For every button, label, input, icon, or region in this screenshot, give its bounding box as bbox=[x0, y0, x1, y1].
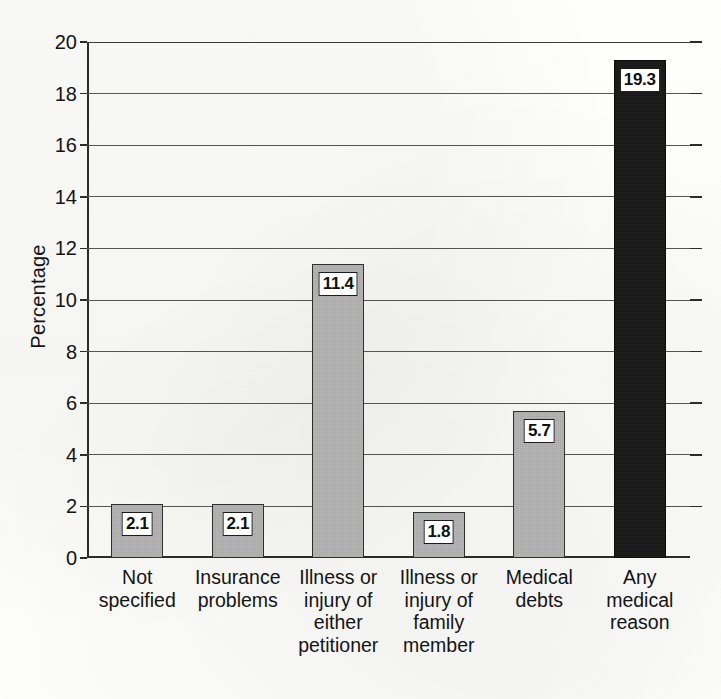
x-axis-label-line: family bbox=[389, 611, 490, 634]
y-axis-ticks: 02468101214161820 bbox=[87, 42, 690, 558]
bar: 2.1 bbox=[111, 504, 163, 558]
x-axis-label-line: injury of bbox=[389, 589, 490, 612]
gridline-right-tick bbox=[690, 506, 702, 508]
bar-chart-figure: Percentage 02468101214161820 2.12.111.41… bbox=[0, 0, 721, 699]
y-axis-tick-mark bbox=[80, 402, 87, 404]
x-axis-category-label: Illness orinjury offamilymember bbox=[389, 566, 490, 656]
bar-value-label: 19.3 bbox=[620, 68, 660, 92]
bar-value-label: 2.1 bbox=[222, 512, 253, 536]
x-axis-label-line: Illness or bbox=[389, 566, 490, 589]
gridline-right-tick bbox=[690, 196, 702, 198]
y-axis-tick-mark bbox=[80, 299, 87, 301]
bar: 11.4 bbox=[312, 264, 364, 558]
x-axis-label-line: Insurance bbox=[188, 566, 289, 589]
bar: 2.1 bbox=[212, 504, 264, 558]
x-axis-label-line: problems bbox=[188, 589, 289, 612]
gridline-right-tick bbox=[690, 248, 702, 250]
y-axis-tick-label: 6 bbox=[17, 393, 77, 413]
y-axis-tick-mark bbox=[80, 506, 87, 508]
x-axis-category-label: Illness orinjury ofeitherpetitioner bbox=[288, 566, 389, 656]
x-axis-category-label: Anymedicalreason bbox=[590, 566, 691, 634]
gridline-right-tick bbox=[690, 402, 702, 404]
x-axis-label-line: Not bbox=[87, 566, 188, 589]
bar: 19.3 bbox=[614, 60, 666, 558]
y-axis-tick-label: 4 bbox=[17, 445, 77, 465]
y-axis-tick-label: 16 bbox=[17, 135, 77, 155]
x-axis-category-label: Insuranceproblems bbox=[188, 566, 289, 611]
bar-value-label: 2.1 bbox=[122, 512, 153, 536]
y-axis-tick-mark bbox=[80, 144, 87, 146]
bar-value-label: 5.7 bbox=[524, 419, 555, 443]
gridline-right-tick bbox=[690, 454, 702, 456]
gridline-right-tick bbox=[690, 351, 702, 353]
y-axis-tick-mark bbox=[80, 248, 87, 250]
y-axis-tick-mark bbox=[80, 557, 87, 559]
y-axis-tick-label: 2 bbox=[17, 496, 77, 516]
bar: 1.8 bbox=[413, 512, 465, 558]
x-axis-label-line: Illness or bbox=[288, 566, 389, 589]
x-axis-label-line: either bbox=[288, 611, 389, 634]
gridline-right-tick bbox=[690, 144, 702, 146]
x-axis-label-line: Medical bbox=[489, 566, 590, 589]
y-axis-tick-label: 20 bbox=[17, 32, 77, 52]
y-axis-tick-mark bbox=[80, 93, 87, 95]
gridline-right-tick bbox=[690, 41, 702, 43]
bar-value-label: 11.4 bbox=[319, 272, 358, 296]
gridline-right-tick bbox=[690, 299, 702, 301]
y-axis-tick-mark bbox=[80, 196, 87, 198]
x-axis-label-line: Any bbox=[590, 566, 691, 589]
x-axis-label-line: injury of bbox=[288, 589, 389, 612]
plot-area: 02468101214161820 2.12.111.41.85.719.3 bbox=[87, 42, 690, 558]
x-axis-label-line: member bbox=[389, 634, 490, 657]
y-axis-tick-label: 18 bbox=[17, 84, 77, 104]
y-axis-tick-mark bbox=[80, 41, 87, 43]
y-axis-tick-label: 14 bbox=[17, 187, 77, 207]
y-axis-tick-label: 12 bbox=[17, 238, 77, 258]
bar-value-label: 1.8 bbox=[423, 520, 454, 544]
x-axis-category-label: Notspecified bbox=[87, 566, 188, 611]
y-axis-tick-label: 0 bbox=[17, 548, 77, 568]
x-axis-label-line: debts bbox=[489, 589, 590, 612]
y-axis-tick-mark bbox=[80, 351, 87, 353]
x-axis-label-line: medical bbox=[590, 589, 691, 612]
bar: 5.7 bbox=[513, 411, 565, 558]
x-axis-category-labels: NotspecifiedInsuranceproblemsIllness ori… bbox=[87, 566, 690, 686]
x-axis-category-label: Medicaldebts bbox=[489, 566, 590, 611]
x-axis-label-line: specified bbox=[87, 589, 188, 612]
x-axis-label-line: petitioner bbox=[288, 634, 389, 657]
gridline-right-tick bbox=[690, 93, 702, 95]
x-axis-label-line: reason bbox=[590, 611, 691, 634]
y-axis-tick-mark bbox=[80, 454, 87, 456]
y-axis-tick-label: 8 bbox=[17, 342, 77, 362]
y-axis-tick-label: 10 bbox=[17, 290, 77, 310]
